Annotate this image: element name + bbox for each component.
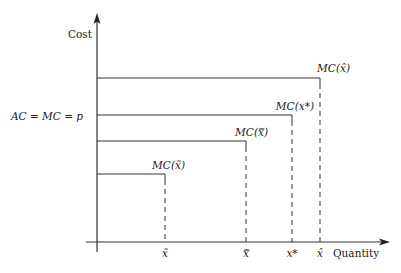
cost-quantity-diagram [0,0,401,273]
mc-label-xtilde: MC(x̃) [152,160,185,171]
y-axis-label: Cost [68,29,92,40]
x-tick-xstar: x* [286,248,297,259]
x-tick-xtilde: x̃ [162,248,168,259]
mc-label-xstar: MC(x*) [276,101,314,112]
mc-label-xhat: MC(x̂) [317,63,350,74]
x-tick-xhat: x̂ [317,248,323,259]
mc-label-xdoublebar: MC(x̿) [235,127,268,138]
x-axis-label: Quantity [333,248,379,259]
price-label: AC = MC = p [11,111,83,122]
x-tick-xdoublebar: x̿ [243,248,249,259]
